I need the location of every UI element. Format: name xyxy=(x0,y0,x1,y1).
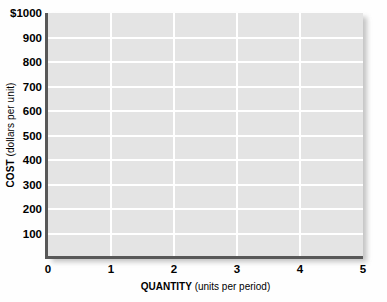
x-axis-tick-label: 1 xyxy=(96,264,126,275)
plot-area xyxy=(48,13,363,258)
x-axis-title: QUANTITY (units per period) xyxy=(48,281,363,292)
y-axis-tick-label: 900 xyxy=(0,33,42,44)
y-axis-tick-label: 200 xyxy=(0,204,42,215)
y-axis-tick-label: 100 xyxy=(0,229,42,240)
chart-figure: 100200300400500600700800900$1000 012345 … xyxy=(0,0,387,302)
y-axis-title: COST (dollars per unit) xyxy=(5,82,16,187)
x-axis-tick-label: 4 xyxy=(285,264,315,275)
gridline-vertical xyxy=(110,13,112,258)
gridline-horizontal xyxy=(48,61,363,63)
y-axis-line xyxy=(45,13,48,259)
gridline-horizontal xyxy=(48,233,363,235)
y-axis-title-units: (dollars per unit) xyxy=(5,82,16,159)
x-axis-tick-label: 5 xyxy=(348,264,378,275)
x-axis-tick-label: 2 xyxy=(159,264,189,275)
y-axis-tick-label: $1000 xyxy=(0,8,42,19)
gridline-horizontal xyxy=(48,135,363,137)
y-axis-title-name: COST xyxy=(5,159,16,187)
gridline-horizontal xyxy=(48,159,363,161)
x-axis-tick-label: 3 xyxy=(222,264,252,275)
x-axis-title-name: QUANTITY xyxy=(141,281,192,292)
gridline-vertical xyxy=(173,13,175,258)
y-axis-tick-label: 800 xyxy=(0,57,42,68)
gridline-vertical xyxy=(299,13,301,258)
gridline-horizontal xyxy=(48,208,363,210)
x-axis-title-units: (units per period) xyxy=(192,281,270,292)
gridline-horizontal xyxy=(48,184,363,186)
gridline-horizontal xyxy=(48,86,363,88)
gridline-horizontal xyxy=(48,37,363,39)
x-axis-tick-label: 0 xyxy=(33,264,63,275)
gridline-vertical xyxy=(236,13,238,258)
gridline-horizontal xyxy=(48,110,363,112)
x-axis-tick-labels: 012345 xyxy=(0,264,387,278)
x-axis-line xyxy=(45,256,363,259)
